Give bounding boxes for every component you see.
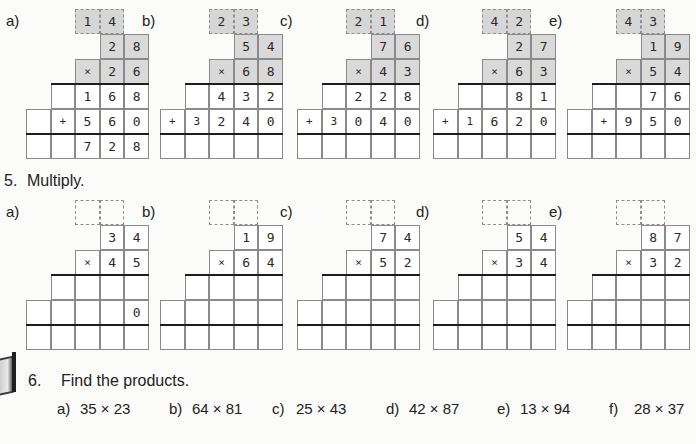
- answer-cell[interactable]: [160, 134, 185, 159]
- partial-product-2-cell[interactable]: [75, 300, 100, 325]
- carry-cell[interactable]: [75, 200, 100, 225]
- answer-cell[interactable]: [458, 134, 483, 159]
- answer-cell[interactable]: 8: [124, 134, 149, 159]
- partial-product-2-cell[interactable]: [346, 300, 371, 325]
- answer-cell[interactable]: [51, 325, 76, 350]
- partial-product-1-cell[interactable]: [185, 275, 210, 300]
- partial-product-2-cell[interactable]: [258, 300, 283, 325]
- partial-product-2-cell[interactable]: 0: [124, 300, 149, 325]
- answer-cell[interactable]: [567, 134, 592, 159]
- partial-product-2-cell[interactable]: [665, 300, 690, 325]
- answer-cell[interactable]: [641, 325, 666, 350]
- partial-product-1-cell[interactable]: [592, 275, 617, 300]
- partial-product-2-cell[interactable]: [185, 300, 210, 325]
- answer-cell[interactable]: [297, 325, 322, 350]
- answer-cell[interactable]: [51, 134, 76, 159]
- partial-product-2-cell[interactable]: [433, 300, 458, 325]
- partial-product-1-cell[interactable]: [507, 275, 532, 300]
- partial-product-2-cell[interactable]: [26, 300, 51, 325]
- partial-product-2-cell[interactable]: [482, 300, 507, 325]
- answer-cell[interactable]: [100, 325, 125, 350]
- answer-cell[interactable]: [482, 134, 507, 159]
- carry-cell[interactable]: [100, 200, 125, 225]
- answer-cell[interactable]: [482, 325, 507, 350]
- answer-cell[interactable]: [395, 134, 420, 159]
- partial-product-2-cell[interactable]: [100, 300, 125, 325]
- answer-cell[interactable]: [665, 325, 690, 350]
- answer-cell[interactable]: [567, 325, 592, 350]
- partial-product-1-cell[interactable]: [665, 275, 690, 300]
- answer-cell[interactable]: [616, 325, 641, 350]
- carry-cell[interactable]: [616, 200, 641, 225]
- carry-cell[interactable]: [482, 200, 507, 225]
- partial-product-1-cell[interactable]: [395, 275, 420, 300]
- answer-cell[interactable]: [26, 134, 51, 159]
- partial-product-1-cell[interactable]: [482, 275, 507, 300]
- carry-cell[interactable]: [234, 200, 259, 225]
- answer-cell[interactable]: [346, 134, 371, 159]
- partial-product-2-cell[interactable]: [234, 300, 259, 325]
- answer-cell[interactable]: [75, 325, 100, 350]
- answer-cell[interactable]: [458, 325, 483, 350]
- carry-cell[interactable]: [209, 200, 234, 225]
- answer-cell[interactable]: [234, 134, 259, 159]
- partial-product-1-cell[interactable]: [458, 275, 483, 300]
- carry-cell[interactable]: [371, 200, 396, 225]
- answer-cell[interactable]: [616, 134, 641, 159]
- answer-cell[interactable]: [346, 325, 371, 350]
- partial-product-2-cell[interactable]: [507, 300, 532, 325]
- answer-cell[interactable]: [209, 325, 234, 350]
- partial-product-2-cell[interactable]: [458, 300, 483, 325]
- answer-cell[interactable]: [433, 325, 458, 350]
- partial-product-1-cell[interactable]: [100, 275, 125, 300]
- answer-cell[interactable]: 2: [100, 134, 125, 159]
- answer-cell[interactable]: [665, 134, 690, 159]
- carry-cell[interactable]: [641, 200, 666, 225]
- partial-product-1-cell[interactable]: [346, 275, 371, 300]
- partial-product-2-cell[interactable]: [567, 300, 592, 325]
- answer-cell[interactable]: [371, 134, 396, 159]
- answer-cell[interactable]: [297, 134, 322, 159]
- answer-cell[interactable]: [185, 134, 210, 159]
- partial-product-1-cell[interactable]: [124, 275, 149, 300]
- answer-cell[interactable]: [124, 325, 149, 350]
- carry-cell[interactable]: [346, 200, 371, 225]
- answer-cell[interactable]: [258, 325, 283, 350]
- answer-cell[interactable]: 7: [75, 134, 100, 159]
- answer-cell[interactable]: [592, 325, 617, 350]
- partial-product-2-cell[interactable]: [160, 300, 185, 325]
- partial-product-1-cell[interactable]: [616, 275, 641, 300]
- partial-product-2-cell[interactable]: [592, 300, 617, 325]
- partial-product-2-cell[interactable]: [641, 300, 666, 325]
- answer-cell[interactable]: [26, 325, 51, 350]
- partial-product-2-cell[interactable]: [297, 300, 322, 325]
- answer-cell[interactable]: [507, 325, 532, 350]
- answer-cell[interactable]: [592, 134, 617, 159]
- answer-cell[interactable]: [258, 134, 283, 159]
- answer-cell[interactable]: [641, 134, 666, 159]
- answer-cell[interactable]: [433, 134, 458, 159]
- partial-product-1-cell[interactable]: [641, 275, 666, 300]
- partial-product-2-cell[interactable]: [616, 300, 641, 325]
- answer-cell[interactable]: [185, 325, 210, 350]
- answer-cell[interactable]: [371, 325, 396, 350]
- partial-product-1-cell[interactable]: [322, 275, 347, 300]
- answer-cell[interactable]: [531, 325, 556, 350]
- partial-product-1-cell[interactable]: [371, 275, 396, 300]
- answer-cell[interactable]: [322, 134, 347, 159]
- partial-product-1-cell[interactable]: [531, 275, 556, 300]
- partial-product-1-cell[interactable]: [75, 275, 100, 300]
- partial-product-2-cell[interactable]: [209, 300, 234, 325]
- answer-cell[interactable]: [160, 325, 185, 350]
- partial-product-2-cell[interactable]: [322, 300, 347, 325]
- partial-product-2-cell[interactable]: [51, 300, 76, 325]
- carry-cell[interactable]: [507, 200, 532, 225]
- answer-cell[interactable]: [531, 134, 556, 159]
- partial-product-2-cell[interactable]: [395, 300, 420, 325]
- answer-cell[interactable]: [322, 325, 347, 350]
- partial-product-2-cell[interactable]: [531, 300, 556, 325]
- answer-cell[interactable]: [395, 325, 420, 350]
- answer-cell[interactable]: [209, 134, 234, 159]
- partial-product-1-cell[interactable]: [51, 275, 76, 300]
- answer-cell[interactable]: [234, 325, 259, 350]
